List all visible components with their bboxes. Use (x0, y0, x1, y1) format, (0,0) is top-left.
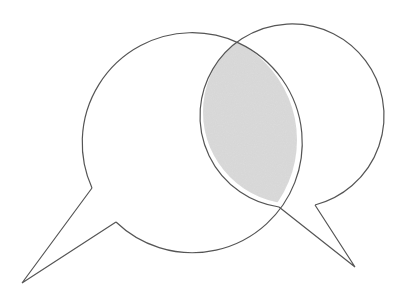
left-bubble-tail (22, 188, 116, 283)
speech-bubbles-venn (0, 0, 409, 297)
diagram-canvas: Two overlapping speech bubbles (0, 0, 409, 297)
right-bubble-tail (279, 205, 355, 267)
